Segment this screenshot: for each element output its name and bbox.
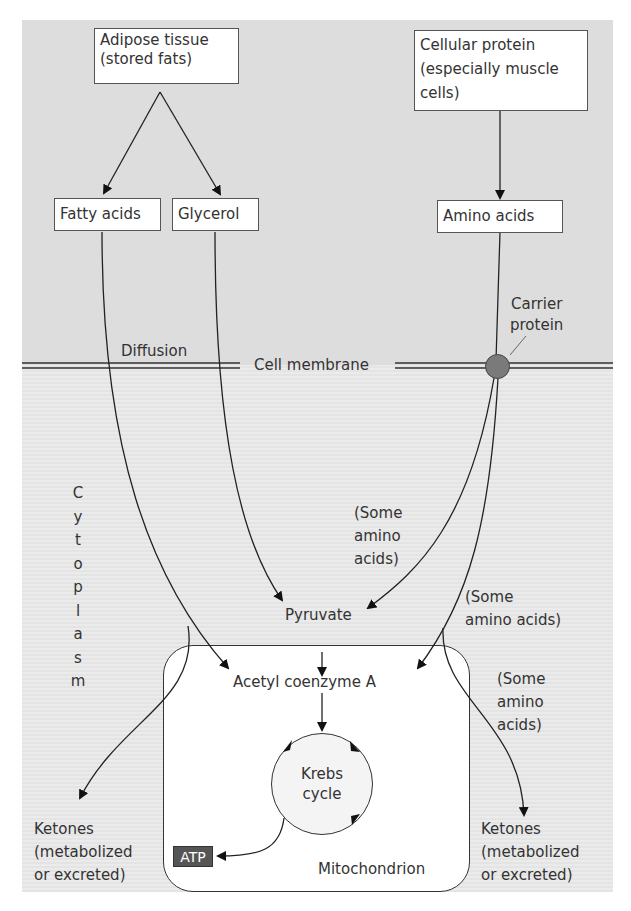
fatty-acids-box: Fatty acids: [54, 198, 161, 231]
cyto-letter: t: [70, 529, 86, 553]
carrier-line-2: protein: [510, 315, 563, 336]
ketones-right: Ketones (metabolized or excreted): [481, 818, 579, 887]
adipose-tissue-box: Adipose tissue (stored fats): [94, 28, 239, 84]
krebs-label-1: Krebs: [301, 764, 343, 784]
cyto-letter: l: [70, 600, 86, 624]
adipose-line-2: (stored fats): [100, 50, 233, 69]
cyto-letter: p: [70, 576, 86, 600]
protein-line-2: (especially muscle: [420, 57, 582, 81]
amino-acids-box: Amino acids: [437, 200, 563, 233]
carrier-protein-label: Carrier protein: [510, 294, 563, 336]
cyto-letter: s: [70, 647, 86, 671]
note-line: (Some: [465, 586, 561, 609]
mitochondrion-label: Mitochondrion: [318, 860, 425, 879]
ketones-line: Ketones: [34, 818, 132, 841]
note-line: amino: [354, 525, 402, 548]
glycerol-box: Glycerol: [172, 198, 259, 231]
ketones-line: (metabolized: [34, 841, 132, 864]
ketones-left: Ketones (metabolized or excreted): [34, 818, 132, 887]
note-line: acids): [354, 548, 402, 571]
krebs-cycle: Krebs cycle: [271, 733, 373, 835]
atp-label: ATP: [173, 846, 213, 867]
cellular-protein-box: Cellular protein (especially muscle cell…: [414, 30, 588, 111]
protein-line-1: Cellular protein: [420, 33, 582, 57]
cyto-letter: a: [70, 623, 86, 647]
cell-membrane-label: Cell membrane: [254, 356, 369, 375]
pyruvate-label: Pyruvate: [285, 606, 352, 625]
cyto-letter: m: [70, 670, 86, 694]
adipose-line-1: Adipose tissue: [100, 31, 233, 50]
note-line: amino acids): [465, 609, 561, 632]
amino-note-acetyl: (Some amino acids): [465, 586, 561, 632]
note-line: amino: [497, 691, 545, 714]
acetyl-coa-label: Acetyl coenzyme A: [233, 673, 376, 692]
krebs-label-2: cycle: [301, 784, 343, 804]
ketones-line: or excreted): [481, 864, 579, 887]
note-line: acids): [497, 714, 545, 737]
note-line: (Some: [354, 502, 402, 525]
protein-line-3: cells): [420, 81, 582, 105]
cytoplasm-label: C y t o p l a s m: [70, 482, 86, 694]
diffusion-label: Diffusion: [121, 342, 187, 361]
amino-note-pyruvate: (Some amino acids): [354, 502, 402, 571]
carrier-protein-icon: [485, 354, 510, 379]
cyto-letter: y: [70, 506, 86, 530]
amino-note-ketones: (Some amino acids): [497, 668, 545, 737]
note-line: (Some: [497, 668, 545, 691]
cyto-letter: o: [70, 553, 86, 577]
carrier-line-1: Carrier: [510, 294, 563, 315]
cyto-letter: C: [70, 482, 86, 506]
ketones-line: or excreted): [34, 864, 132, 887]
ketones-line: (metabolized: [481, 841, 579, 864]
ketones-line: Ketones: [481, 818, 579, 841]
